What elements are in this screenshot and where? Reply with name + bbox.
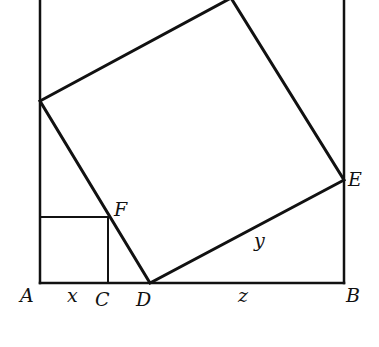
point-label-C: C <box>95 288 110 310</box>
tilted-square <box>40 0 344 283</box>
segment-label-x: x <box>67 284 78 306</box>
point-label-E: E <box>347 168 362 190</box>
geometry-diagram: A x C D z B E F y <box>0 0 379 347</box>
segment-label-z: z <box>237 284 249 306</box>
point-label-D: D <box>135 288 151 310</box>
segment-label-y: y <box>253 229 265 251</box>
point-label-F: F <box>113 198 128 220</box>
point-label-B: B <box>345 284 360 306</box>
point-label-A: A <box>18 284 34 306</box>
